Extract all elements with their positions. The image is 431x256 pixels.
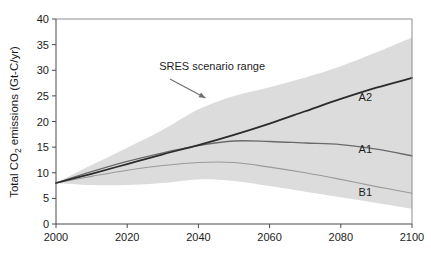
x-axis-ticks <box>56 224 412 228</box>
x-tick-label: 2100 <box>400 231 424 243</box>
x-tick-label: 2080 <box>329 231 353 243</box>
y-tick-label: 5 <box>43 192 49 204</box>
y-axis-title: Total CO2 emissions (Gt-C/yr) <box>8 46 23 198</box>
y-tick-label: 0 <box>43 218 49 230</box>
sres-annotation-label: SRES scenario range <box>159 60 265 72</box>
y-axis-ticks <box>52 19 56 224</box>
x-axis-tick-labels: 200020202040206020802100 <box>44 231 424 243</box>
y-tick-label: 25 <box>37 90 49 102</box>
series-label-a2: A2 <box>359 91 372 103</box>
figure-container: 0510152025303540 20002020204020602080210… <box>0 0 431 256</box>
chart-canvas: 0510152025303540 20002020204020602080210… <box>0 0 431 256</box>
y-tick-label: 40 <box>37 13 49 25</box>
x-tick-label: 2000 <box>44 231 68 243</box>
y-tick-label: 30 <box>37 64 49 76</box>
x-tick-label: 2060 <box>257 231 281 243</box>
x-tick-label: 2020 <box>115 231 139 243</box>
series-label-b1: B1 <box>359 186 372 198</box>
y-tick-label: 10 <box>37 167 49 179</box>
y-tick-label: 35 <box>37 39 49 51</box>
y-tick-label: 20 <box>37 116 49 128</box>
series-label-a1: A1 <box>359 143 372 155</box>
x-tick-label: 2040 <box>186 231 210 243</box>
annotation-arrow-head <box>199 93 206 98</box>
y-tick-label: 15 <box>37 141 49 153</box>
y-axis-tick-labels: 0510152025303540 <box>37 13 49 230</box>
